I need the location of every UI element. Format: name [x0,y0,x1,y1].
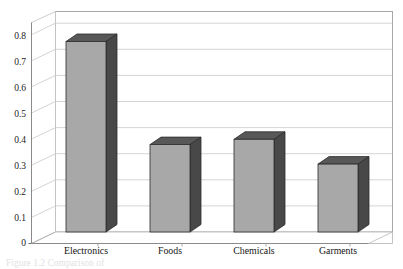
bar-foods[interactable] [150,137,201,232]
bar-electronics[interactable] [66,34,117,232]
bar-chemicals-side [274,132,285,232]
left-side-wall [32,12,56,244]
bar-garments[interactable] [318,157,369,232]
floor-panel [32,232,393,244]
category-label-chemicals: Chemicals [233,245,275,256]
y-tick-label-0.2: 0.2 [14,187,26,197]
category-label-garments: Garments [319,245,357,256]
category-labels: Electronics Foods Chemicals Garments [64,245,357,256]
bar-electronics-front [66,42,106,233]
y-tick-label-0.3: 0.3 [14,161,26,171]
bar-chart-3d: 0 0.1 0.2 0.3 0.4 0.5 0.6 0.7 0.8 [0,0,403,269]
figure-caption: Figure 1.2 Comparison of [6,257,396,269]
category-label-electronics: Electronics [64,245,108,256]
bar-chemicals-front [234,139,274,232]
bar-garments-side [358,157,369,232]
bar-chemicals[interactable] [234,132,285,232]
y-tick-label-0.8: 0.8 [14,31,26,41]
y-tick-label-0: 0 [21,238,26,248]
bar-foods-front [150,145,190,232]
y-tick-labels: 0 0.1 0.2 0.3 0.4 0.5 0.6 0.7 0.8 [14,31,26,249]
bar-foods-side [190,137,201,232]
bar-electronics-side [106,34,117,232]
y-axis [29,23,32,244]
category-label-foods: Foods [158,245,182,256]
y-tick-label-0.1: 0.1 [14,213,26,223]
y-tick-label-0.4: 0.4 [14,135,26,145]
figure-container: 0 0.1 0.2 0.3 0.4 0.5 0.6 0.7 0.8 [0,0,403,269]
y-tick-label-0.6: 0.6 [14,83,26,93]
bar-garments-front [318,164,358,232]
y-tick-label-0.7: 0.7 [14,57,26,67]
y-tick-label-0.5: 0.5 [14,109,26,119]
